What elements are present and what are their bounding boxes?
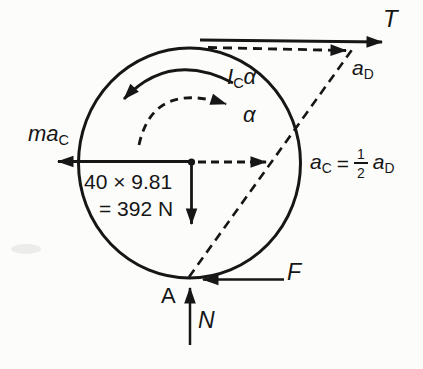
moment-label: ICα <box>227 66 256 91</box>
kinematic-relation-label: aC = 1 2 aD <box>310 146 394 181</box>
relation-rhs: aD <box>373 151 395 176</box>
weight-value-label: 40 × 9.81 = 392 N <box>84 168 173 222</box>
scan-smudge <box>11 244 41 254</box>
relation-lhs: aC <box>310 151 332 176</box>
moment-arc-arrow <box>124 70 233 99</box>
weight-line2: = 392 N <box>84 195 173 222</box>
relation-equals: = <box>337 153 349 174</box>
alpha-arc-arrow <box>139 98 226 145</box>
alpha-label: α <box>243 104 256 126</box>
free-body-diagram-figure: T aD ICα α maC 40 × 9.81 = 392 N aC = 1 … <box>0 0 423 369</box>
relation-fraction: 1 2 <box>354 146 368 181</box>
accel-d-label: aD <box>352 57 374 82</box>
accel-d-arrow <box>208 48 346 51</box>
tension-label: T <box>383 7 398 31</box>
contact-point-label: A <box>161 285 176 307</box>
weight-line1: 40 × 9.81 <box>84 168 173 195</box>
center-point-dot <box>188 158 195 165</box>
normal-label: N <box>198 309 215 332</box>
inertia-force-label: maC <box>28 123 69 148</box>
friction-label: F <box>287 261 301 284</box>
tension-arrow <box>200 40 382 42</box>
